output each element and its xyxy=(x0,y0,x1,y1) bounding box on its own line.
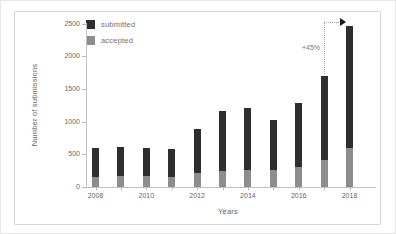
y-tick-label: 2000 xyxy=(41,52,80,60)
x-tick-mark xyxy=(273,187,274,190)
figure: submitted accepted Number of submissions… xyxy=(0,0,396,234)
y-axis-line xyxy=(86,23,87,188)
y-axis-title: Number of submissions xyxy=(30,64,39,147)
x-tick-mark xyxy=(96,187,97,190)
annotation-dotted-horizontal-line xyxy=(324,22,341,23)
x-axis-line xyxy=(86,187,376,188)
bar-2013-accepted-segment xyxy=(219,171,226,187)
y-tick-mark xyxy=(82,89,86,90)
x-tick-label: 2012 xyxy=(182,192,212,200)
y-tick-label: 2500 xyxy=(41,20,80,28)
x-tick-label: 2008 xyxy=(81,192,111,200)
x-tick-mark xyxy=(248,187,249,190)
legend-item-submitted: submitted xyxy=(86,20,135,29)
y-tick-label: 0 xyxy=(41,183,80,191)
x-tick-label: 2010 xyxy=(131,192,161,200)
bar-2009-accepted-segment xyxy=(117,176,124,187)
bar-2018-accepted-segment xyxy=(346,148,353,187)
x-tick-mark xyxy=(223,187,224,190)
x-tick-mark xyxy=(121,187,122,190)
y-tick-label: 1000 xyxy=(41,118,80,126)
x-axis-title: Years xyxy=(218,207,238,216)
x-tick-mark xyxy=(197,187,198,190)
bar-2011-accepted-segment xyxy=(168,177,175,187)
y-tick-mark xyxy=(82,24,86,25)
y-tick-label: 500 xyxy=(41,150,80,158)
legend-item-accepted: accepted xyxy=(86,36,133,45)
x-tick-label: 2018 xyxy=(335,192,365,200)
y-tick-label: 1500 xyxy=(41,85,80,93)
y-tick-mark xyxy=(82,187,86,188)
x-tick-mark xyxy=(324,187,325,190)
x-tick-mark xyxy=(299,187,300,190)
y-tick-mark xyxy=(82,122,86,123)
bar-2017-accepted-segment xyxy=(321,160,328,187)
bar-2016-accepted-segment xyxy=(295,167,302,187)
x-tick-mark xyxy=(146,187,147,190)
legend-swatch-accepted-icon xyxy=(86,36,95,45)
y-tick-mark xyxy=(82,154,86,155)
growth-annotation-label: +45% xyxy=(280,44,320,51)
bar-2010-accepted-segment xyxy=(143,176,150,187)
legend-swatch-submitted-icon xyxy=(86,20,95,29)
y-tick-mark xyxy=(82,56,86,57)
bar-2012-accepted-segment xyxy=(194,173,201,187)
bar-2008-accepted-segment xyxy=(92,177,99,187)
legend-label-submitted: submitted xyxy=(101,20,135,29)
x-tick-mark xyxy=(172,187,173,190)
bar-2015-accepted-segment xyxy=(270,170,277,187)
annotation-dotted-vertical-line xyxy=(324,22,325,74)
legend-label-accepted: accepted xyxy=(101,36,133,45)
annotation-arrowhead-icon xyxy=(340,18,346,26)
x-tick-label: 2016 xyxy=(284,192,314,200)
x-tick-label: 2014 xyxy=(233,192,263,200)
x-tick-mark xyxy=(350,187,351,190)
bar-2014-accepted-segment xyxy=(244,170,251,187)
